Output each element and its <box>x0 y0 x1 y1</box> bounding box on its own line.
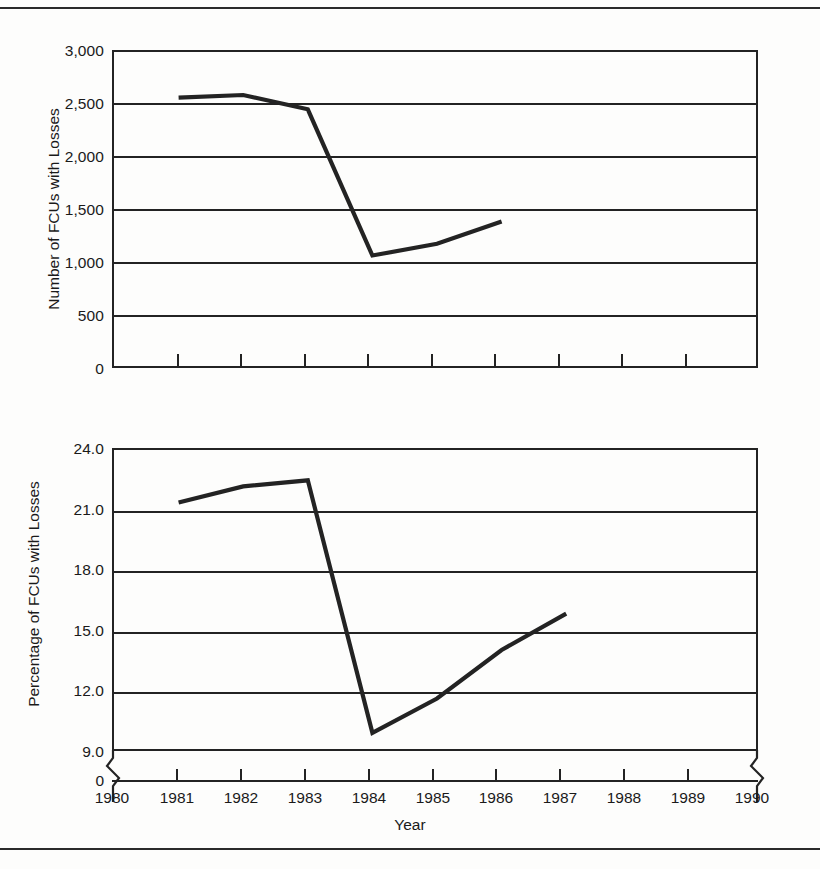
xtick-label-1980: 1980 <box>77 790 147 806</box>
xtick-label-1982-mark <box>240 769 242 781</box>
xtick-label-1986-mark <box>495 769 497 781</box>
ytick-label-21: 21.0 <box>4 502 104 518</box>
plot-area-bottom-chart <box>112 448 758 751</box>
xtick-label-1987: 1987 <box>525 790 595 806</box>
xtick-label-1983: 1983 <box>270 790 340 806</box>
xtick-label-1987-mark <box>559 769 561 781</box>
xtick-label-1985: 1985 <box>398 790 468 806</box>
ytick-label-2500: 2,500 <box>4 96 104 112</box>
ytick-label-500: 500 <box>4 308 104 324</box>
xtick-label-1988: 1988 <box>589 790 659 806</box>
xtick-label-1981-mark <box>176 769 178 781</box>
y-axis-title-bottom-chart: Percentage of FCUs with Losses <box>25 434 43 754</box>
xtick-label-1986: 1986 <box>461 790 531 806</box>
ytick-label-1500: 1,500 <box>4 202 104 218</box>
ytick-label-12: 12.0 <box>4 683 104 699</box>
x-axis-title: Year <box>365 816 455 834</box>
ytick-label-3000: 3,000 <box>4 43 104 59</box>
ytick-label-2000: 2,000 <box>4 149 104 165</box>
xtick-label-1989: 1989 <box>653 790 723 806</box>
ytick-label-18: 18.0 <box>4 562 104 578</box>
xtick-label-1988-mark <box>623 769 625 781</box>
xtick-label-1985-mark <box>432 769 434 781</box>
figure-page: Number of FCUs with Losses 3,000 <box>0 0 820 869</box>
xtick-label-1989-mark <box>687 769 689 781</box>
chart-percentage-of-fcus-with-losses: Percentage of FCUs with Losses <box>0 420 820 869</box>
ytick-label-1000: 1,000 <box>4 255 104 271</box>
plot-area-top-chart <box>112 50 758 368</box>
xtick-label-1981: 1981 <box>142 790 212 806</box>
chart-number-of-fcus-with-losses: Number of FCUs with Losses 3,000 <box>0 0 820 420</box>
series-line-number-of-fcus <box>114 52 760 370</box>
xtick-label-1982: 1982 <box>206 790 276 806</box>
ytick-label-9: 9.0 <box>4 744 104 760</box>
ytick-label-zero: 0 <box>4 773 104 789</box>
xtick-label-1984: 1984 <box>334 790 404 806</box>
ytick-label-24: 24.0 <box>4 441 104 457</box>
ytick-label-0: 0 <box>4 361 104 377</box>
xtick-label-1983-mark <box>304 769 306 781</box>
xtick-label-1984-mark <box>368 769 370 781</box>
xtick-label-1990: 1990 <box>717 790 787 806</box>
series-line-percentage-of-fcus <box>114 450 760 753</box>
x-axis-baseline <box>112 780 758 782</box>
ytick-label-15: 15.0 <box>4 623 104 639</box>
